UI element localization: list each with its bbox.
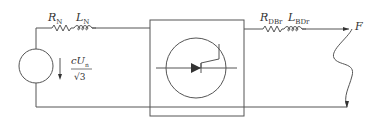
resistor-rn-icon [52,25,74,31]
svg-text:RDBr: RDBr [259,11,283,26]
thyristor-triangle-icon [191,63,201,73]
source-denominator: √3 [74,72,86,82]
lbdr-label: L [287,11,295,24]
resistor-rdbr-icon [263,26,284,32]
rdbr-label: R [259,11,268,24]
svg-text:RN: RN [47,11,62,26]
voltage-source-icon [19,49,53,83]
svg-text:LN: LN [75,11,89,26]
svg-text:LBDr: LBDr [287,11,310,26]
fault-label: F [354,20,363,33]
thyristor-gate-icon [201,44,219,68]
rn-label: R [47,11,56,24]
fault-arrow-head-top [343,27,349,31]
ln-label: L [75,11,83,24]
voltage-arrow-head [58,74,62,80]
svg-text:cUn: cUn [71,55,89,68]
fault-path-icon [333,29,352,107]
source-numerator: cU [71,55,86,66]
circuit-diagram: RN LN cUn √3 RDBr LBDr F [0,0,373,121]
